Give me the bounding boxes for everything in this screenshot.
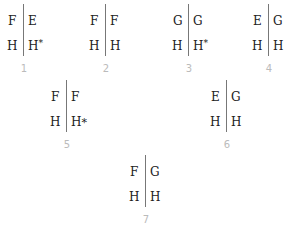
- cell-top-right: G: [273, 14, 283, 28]
- divider-line: [23, 4, 24, 56]
- panel-2: F F H H 2: [86, 4, 126, 76]
- cell-bottom-left: H: [89, 39, 99, 53]
- cell-bottom-right: H*: [193, 39, 208, 53]
- panel-label: 2: [102, 63, 110, 74]
- cell-bottom-right-letter: H: [28, 39, 38, 53]
- divider-line: [226, 80, 227, 132]
- cell-top-left: G: [173, 14, 183, 28]
- panel-label: 7: [142, 214, 150, 225]
- cell-top-right: F: [71, 90, 79, 104]
- divider-line: [268, 4, 269, 56]
- cell-bottom-right: H: [150, 190, 160, 204]
- cell-bottom-right: H*: [28, 39, 43, 53]
- panel-label: 4: [265, 63, 273, 74]
- panel-label: 1: [20, 63, 28, 74]
- cell-bottom-right: H: [231, 115, 241, 129]
- cell-bottom-right-letter: H: [71, 115, 81, 129]
- cell-bottom-left: H: [50, 115, 60, 129]
- cell-bottom-left: H: [252, 39, 262, 53]
- panel-label: 3: [185, 63, 193, 74]
- divider-line: [145, 155, 146, 207]
- panel-3: G G H H* 3: [169, 4, 209, 76]
- cell-bottom-right: H: [110, 39, 120, 53]
- panel-4: E G H H 4: [249, 4, 286, 76]
- panel-label: 6: [223, 139, 231, 150]
- panel-1: F E H H* 1: [4, 4, 44, 76]
- cell-bottom-left: H: [129, 190, 139, 204]
- asterisk-marker: *: [81, 116, 87, 129]
- cell-bottom-left: H: [210, 115, 220, 129]
- divider-line: [105, 4, 106, 56]
- panel-6: E G H H 6: [207, 80, 247, 152]
- cell-top-right: F: [110, 14, 118, 28]
- panel-label: 5: [63, 139, 71, 150]
- cell-top-right: G: [231, 90, 241, 104]
- cell-top-right: E: [28, 14, 37, 28]
- panel-7: F G H H 7: [126, 155, 166, 227]
- asterisk-marker: *: [38, 38, 43, 48]
- divider-line: [66, 80, 67, 132]
- cell-bottom-right: H: [273, 39, 283, 53]
- cell-top-left: F: [51, 90, 59, 104]
- cell-bottom-left: H: [172, 39, 182, 53]
- cell-bottom-left: H: [7, 39, 17, 53]
- cell-top-left: F: [90, 14, 98, 28]
- panel-5: F F H H* 5: [47, 80, 87, 152]
- divider-line: [188, 4, 189, 56]
- cell-top-left: E: [211, 90, 220, 104]
- asterisk-marker: *: [203, 38, 208, 48]
- cell-bottom-right: H*: [71, 115, 87, 130]
- cell-top-right: G: [150, 165, 160, 179]
- cell-top-left: F: [8, 14, 16, 28]
- cell-top-left: F: [130, 165, 138, 179]
- cell-top-right: G: [193, 14, 203, 28]
- cell-top-left: E: [253, 14, 262, 28]
- cell-bottom-right-letter: H: [193, 39, 203, 53]
